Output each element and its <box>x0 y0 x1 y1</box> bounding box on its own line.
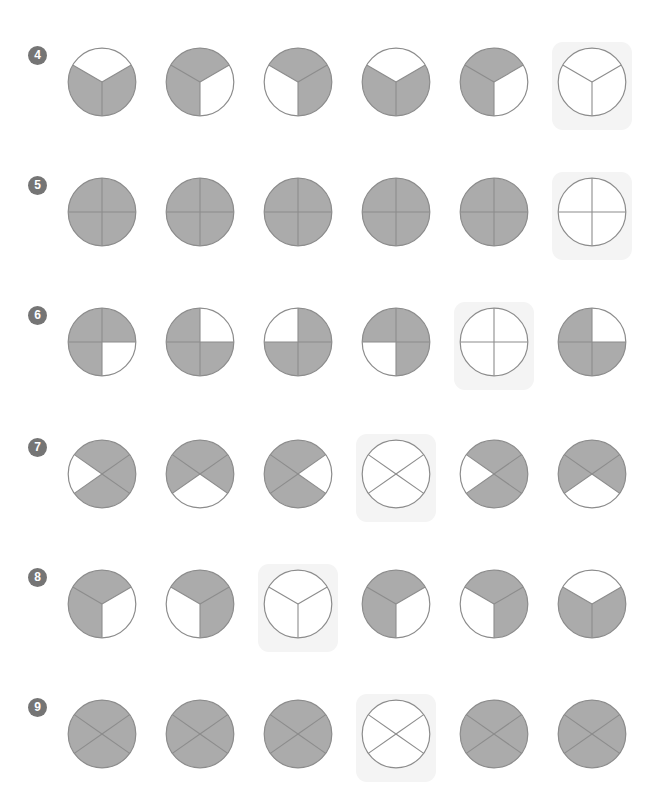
figure-cell[interactable] <box>445 432 543 536</box>
figure-cell[interactable] <box>347 562 445 666</box>
figure-cell[interactable] <box>53 300 151 404</box>
figure-cell[interactable] <box>151 692 249 796</box>
shaded-circle-icon <box>263 177 333 247</box>
shaded-circle-icon <box>165 569 235 639</box>
shaded-circle-icon <box>263 569 333 639</box>
shaded-circle-icon <box>263 439 333 509</box>
figure-cell[interactable] <box>53 432 151 536</box>
shaded-circle-icon <box>165 699 235 769</box>
shaded-circle-icon <box>67 177 137 247</box>
shaded-circle-icon <box>67 569 137 639</box>
row-number-badge: 5 <box>28 176 47 195</box>
figure-cell[interactable] <box>249 40 347 144</box>
row-number-badge: 7 <box>28 438 47 457</box>
shaded-circle-icon <box>459 439 529 509</box>
figure-cell[interactable] <box>151 432 249 536</box>
figure-cell[interactable] <box>53 562 151 666</box>
figure-cell[interactable] <box>543 170 641 274</box>
figure-cell[interactable] <box>543 300 641 404</box>
shaded-circle-icon <box>557 699 627 769</box>
figure-cell[interactable] <box>347 170 445 274</box>
shaded-circle-icon <box>67 307 137 377</box>
shaded-circle-icon <box>263 699 333 769</box>
shaded-circle-icon <box>165 177 235 247</box>
figure-cell[interactable] <box>543 40 641 144</box>
puzzle-row-7: 7 <box>0 432 668 562</box>
figure-cell[interactable] <box>543 692 641 796</box>
shaded-circle-icon <box>459 699 529 769</box>
row-number-badge: 6 <box>28 306 47 325</box>
figure-cell[interactable] <box>445 170 543 274</box>
figure-cell[interactable] <box>445 40 543 144</box>
shaded-circle-icon <box>459 569 529 639</box>
shaded-circle-icon <box>361 569 431 639</box>
shaded-circle-icon <box>361 307 431 377</box>
row-number-badge: 8 <box>28 568 47 587</box>
shaded-circle-icon <box>557 177 627 247</box>
figure-cell[interactable] <box>543 432 641 536</box>
row-number-badge: 4 <box>28 46 47 65</box>
row-number-badge: 9 <box>28 698 47 717</box>
figure-cell[interactable] <box>249 170 347 274</box>
figure-cell[interactable] <box>347 300 445 404</box>
shaded-circle-icon <box>557 439 627 509</box>
puzzle-row-9: 9 <box>0 692 668 799</box>
puzzle-row-6: 6 <box>0 300 668 430</box>
shaded-circle-icon <box>67 47 137 117</box>
figure-cell[interactable] <box>347 40 445 144</box>
shaded-circle-icon <box>67 439 137 509</box>
shaded-circle-icon <box>459 307 529 377</box>
figure-cell[interactable] <box>445 562 543 666</box>
shaded-circle-icon <box>557 569 627 639</box>
figure-cell[interactable] <box>347 692 445 796</box>
puzzle-row-5: 5 <box>0 170 668 300</box>
figure-cell[interactable] <box>347 432 445 536</box>
figure-cell[interactable] <box>249 692 347 796</box>
figure-cell[interactable] <box>151 170 249 274</box>
figure-cell[interactable] <box>53 692 151 796</box>
shaded-circle-icon <box>361 439 431 509</box>
shaded-circle-icon <box>459 47 529 117</box>
shaded-circle-icon <box>165 439 235 509</box>
shaded-circle-icon <box>165 307 235 377</box>
shaded-circle-icon <box>361 177 431 247</box>
figure-cell[interactable] <box>249 300 347 404</box>
figure-cell[interactable] <box>445 692 543 796</box>
shaded-circle-icon <box>67 699 137 769</box>
shaded-circle-icon <box>557 47 627 117</box>
puzzle-sheet: 456789 <box>0 0 668 799</box>
shaded-circle-icon <box>361 699 431 769</box>
figure-cell[interactable] <box>543 562 641 666</box>
figure-cell[interactable] <box>53 40 151 144</box>
puzzle-row-8: 8 <box>0 562 668 692</box>
shaded-circle-icon <box>459 177 529 247</box>
figure-cell[interactable] <box>445 300 543 404</box>
shaded-circle-icon <box>165 47 235 117</box>
figure-cell[interactable] <box>249 432 347 536</box>
puzzle-row-4: 4 <box>0 40 668 170</box>
shaded-circle-icon <box>557 307 627 377</box>
figure-cell[interactable] <box>151 562 249 666</box>
figure-cell[interactable] <box>249 562 347 666</box>
figure-cell[interactable] <box>151 40 249 144</box>
shaded-circle-icon <box>361 47 431 117</box>
figure-cell[interactable] <box>151 300 249 404</box>
shaded-circle-icon <box>263 307 333 377</box>
figure-cell[interactable] <box>53 170 151 274</box>
shaded-circle-icon <box>263 47 333 117</box>
